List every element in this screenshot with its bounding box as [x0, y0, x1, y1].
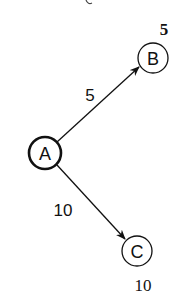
graph-diagram: 5 10 A B 5 C 10	[0, 0, 175, 298]
node-c: C	[122, 236, 152, 266]
node-b: B	[138, 43, 168, 73]
node-a: A	[29, 137, 61, 169]
node-c-distance: 10	[135, 276, 152, 295]
cropped-caption-fragment	[86, 0, 92, 4]
node-a-label: A	[39, 144, 51, 164]
node-b-distance: 5	[160, 20, 169, 39]
node-c-label: C	[131, 242, 144, 262]
node-b-label: B	[147, 49, 159, 69]
edge-a-to-c-weight: 10	[54, 201, 73, 220]
edge-a-to-b-weight: 5	[85, 86, 94, 105]
edge-a-to-b	[57, 67, 139, 142]
